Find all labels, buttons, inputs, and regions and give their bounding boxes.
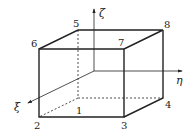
node-8-label: 8 [164, 19, 170, 30]
node-6-label: 6 [31, 38, 37, 49]
node-7-label: 7 [118, 37, 124, 48]
right-face-edges [124, 30, 163, 117]
node-2-label: 2 [34, 120, 40, 131]
node-5-label: 5 [73, 18, 79, 29]
top-face-edges [39, 30, 163, 49]
visible-edges [39, 30, 163, 117]
axes [28, 9, 182, 103]
node-3-label: 3 [121, 120, 127, 131]
hexahedron-diagram: ζ η ξ 1 2 3 4 5 6 7 8 [0, 0, 191, 136]
node-4-label: 4 [165, 99, 171, 110]
diagram-svg: ζ η ξ 1 2 3 4 5 6 7 8 [0, 0, 191, 136]
hidden-edges [39, 30, 163, 117]
zeta-label: ζ [99, 7, 106, 20]
xi-axis [28, 71, 94, 103]
node-1-label: 1 [76, 105, 82, 116]
eta-label: η [176, 74, 183, 87]
xi-label: ξ [14, 101, 21, 114]
